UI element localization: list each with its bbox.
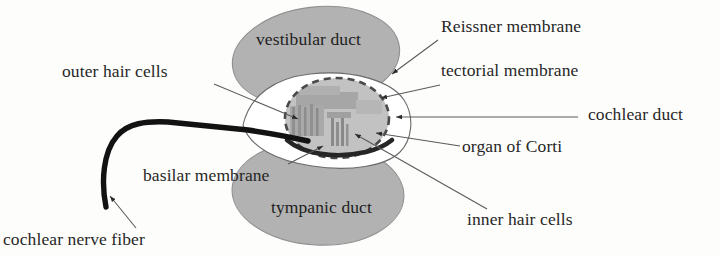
- label-reissner-membrane: Reissner membrane: [441, 18, 581, 36]
- label-cochlear-duct: cochlear duct: [588, 106, 683, 124]
- label-outer-hair-cells: outer hair cells: [62, 63, 168, 81]
- label-tympanic-duct: tympanic duct: [271, 199, 372, 217]
- label-tectorial-membrane: tectorial membrane: [441, 62, 578, 80]
- label-vestibular-duct: vestibular duct: [256, 31, 361, 49]
- label-inner-hair-cells: inner hair cells: [467, 211, 573, 229]
- label-organ-of-corti: organ of Corti: [462, 138, 562, 156]
- label-basilar-membrane: basilar membrane: [143, 167, 269, 185]
- leader-cochlear-nerve-fiber: [110, 196, 136, 228]
- cochlea-diagram-figure: outer hair cells vestibular duct Reissne…: [0, 0, 720, 256]
- label-cochlear-nerve-fiber: cochlear nerve fiber: [3, 231, 145, 249]
